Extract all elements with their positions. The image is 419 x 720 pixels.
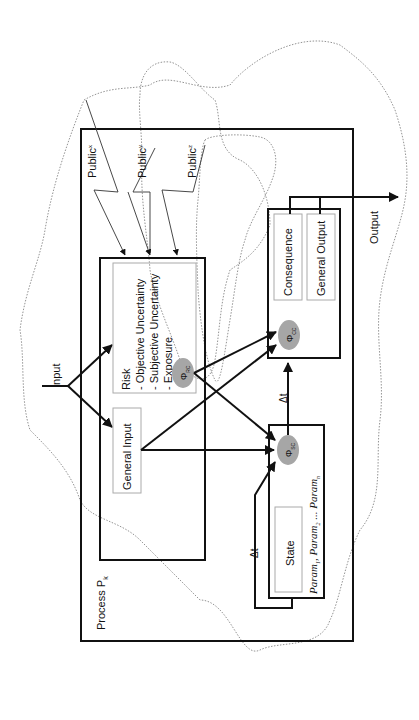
state-feedback-loop: [255, 462, 292, 608]
input-label: Input: [50, 364, 62, 388]
risk-text: Risk - Objective Uncertainty - Subjectiv…: [120, 273, 174, 390]
process-diagram: Process Pk Publicx Publicy Publicz Input…: [0, 0, 419, 720]
state-label: State: [284, 540, 296, 566]
svg-text:- Exposure: - Exposure: [162, 337, 174, 390]
public-z-arrow: [162, 145, 205, 255]
output-connector: [290, 197, 320, 214]
process-label: Process Pk: [95, 576, 109, 630]
public-y-label: Publicy: [136, 145, 148, 178]
consequence-label: Consequence: [282, 228, 294, 296]
output-label: Output: [368, 211, 380, 244]
public-x-label: Publicx: [86, 145, 98, 178]
input-to-general-input-arrow: [68, 386, 112, 427]
svg-text:Param1, Param2 ... Paramn: Param1, Param2 ... Paramn: [307, 476, 321, 595]
delta-t-feedback-label: Δt: [249, 548, 260, 558]
public-z-cloud: [196, 135, 275, 382]
input-to-risk-arrow: [68, 345, 112, 386]
public-x-cloud: [20, 41, 407, 651]
delta-t-label: Δt: [278, 393, 289, 403]
general-output-label: General Output: [315, 221, 327, 296]
public-z-label: Publicz: [186, 145, 198, 178]
svg-text:Risk: Risk: [120, 368, 132, 390]
svg-text:- Subjective Uncertainty: - Subjective Uncertainty: [148, 273, 160, 390]
general-input-label: General Input: [121, 423, 133, 490]
rc-to-sc-arrow: [194, 373, 275, 440]
svg-text:- Objective Uncertainty: - Objective Uncertainty: [134, 278, 146, 390]
params-label: Param1, Param2 ... Paramn: [307, 476, 321, 595]
